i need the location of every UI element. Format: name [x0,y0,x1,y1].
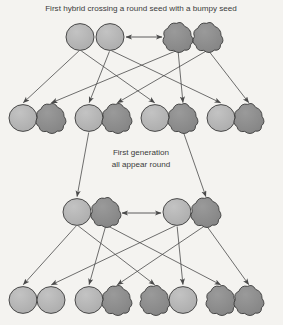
top-caption: First hybrid crossing a round seed with … [45,4,237,13]
round-seed-shape: round seed [37,287,65,314]
round-seed-shape: round seed [9,287,37,314]
round-seed-shape: round seed [75,105,103,132]
round-seed-shape: round seed [66,24,94,51]
diagram-canvas: round seedround seedbumpy seedbumpy seed… [0,0,283,325]
round-seed-shape: round seed [75,287,103,314]
round-seed-shape: round seed [163,199,191,226]
middle-caption-line-1: First generation [113,148,169,157]
round-seed-shape: round seed [141,105,169,132]
round-seed-shape: round seed [207,105,235,132]
middle-caption-line-2: all appear round [112,160,171,169]
round-seed-shape: round seed [9,105,37,132]
round-seed-shape: round seed [169,287,197,314]
round-seed-shape: round seed [63,199,91,226]
round-seed-shape: round seed [96,24,124,51]
inheritance-diagram: round seedround seedbumpy seedbumpy seed… [0,0,283,325]
